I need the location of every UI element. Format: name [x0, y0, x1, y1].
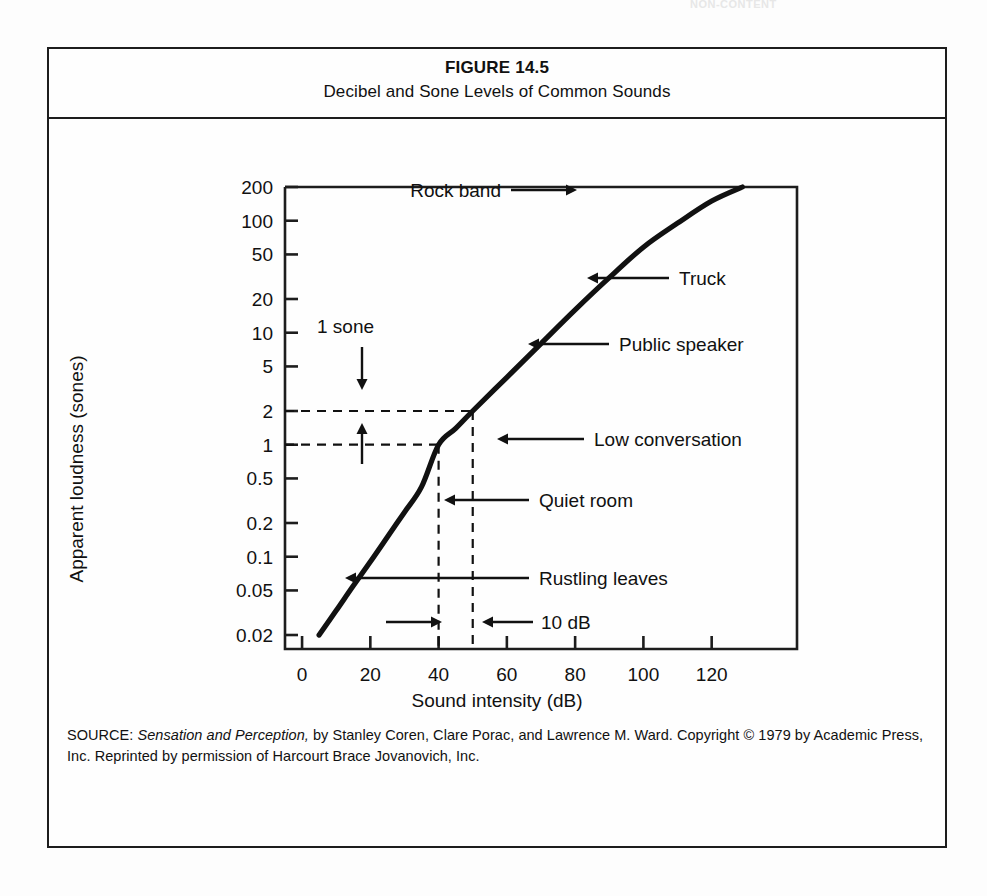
figure-header: FIGURE 14.5 Decibel and Sone Levels of C…: [49, 49, 945, 119]
y-tick-label: 200: [241, 177, 273, 198]
arrowhead: [431, 617, 442, 628]
arrowhead: [587, 273, 598, 284]
annotation-label: 1 sone: [317, 316, 374, 337]
y-tick-label: 100: [241, 211, 273, 232]
x-tick-label: 120: [696, 664, 728, 685]
arrowhead: [345, 573, 356, 584]
source-prefix: SOURCE:: [67, 727, 133, 743]
page-canvas: NON-CONTENT FIGURE 14.5 Decibel and Sone…: [0, 0, 987, 896]
annotation-label: Public speaker: [619, 334, 744, 355]
y-tick-label: 1: [262, 435, 273, 456]
annotation-label: Truck: [679, 268, 726, 289]
figure-title: Decibel and Sone Levels of Common Sounds: [49, 80, 945, 105]
annotation-label: Quiet room: [539, 490, 633, 511]
y-tick-label: 0.05: [236, 580, 273, 601]
annotation-label: 10 dB: [541, 612, 591, 633]
y-tick-label: 50: [252, 244, 273, 265]
source-title: Sensation and Perception,: [138, 727, 309, 743]
arrowhead: [357, 379, 368, 390]
reference-lines: [285, 411, 473, 649]
y-tick-label: 20: [252, 289, 273, 310]
x-tick-label: 20: [360, 664, 381, 685]
x-tick-label: 0: [297, 664, 308, 685]
y-axis-title: Apparent loudness (sones): [66, 355, 87, 582]
x-tick-label: 40: [428, 664, 449, 685]
y-tick-label: 0.5: [247, 468, 273, 489]
arrowhead: [357, 423, 368, 434]
y-tick-label: 10: [252, 323, 273, 344]
running-head: NON-CONTENT: [690, 0, 777, 10]
y-tick-label: 0.1: [247, 547, 273, 568]
annotation-label: Low conversation: [594, 429, 742, 450]
x-tick-label: 60: [496, 664, 517, 685]
y-tick-label: 2: [262, 401, 273, 422]
y-tick-label: 5: [262, 356, 273, 377]
figure-number: FIGURE 14.5: [49, 57, 945, 80]
annotation-leaders: [345, 185, 669, 628]
loudness-line-chart: 2001005020105210.50.20.10.050.02 0204060…: [49, 119, 945, 719]
figure-source: SOURCE: Sensation and Perception, by Sta…: [67, 725, 929, 766]
x-tick-label: 100: [628, 664, 660, 685]
annotation-label: Rock band: [410, 180, 501, 201]
arrowhead: [482, 617, 493, 628]
annotation-label: Rustling leaves: [539, 568, 668, 589]
arrowhead: [444, 495, 455, 506]
x-axis-title: Sound intensity (dB): [411, 690, 582, 711]
x-tick-label: 80: [565, 664, 586, 685]
figure-box: FIGURE 14.5 Decibel and Sone Levels of C…: [47, 47, 947, 848]
annotation-labels: Rock bandTruckPublic speakerLow conversa…: [317, 180, 744, 633]
y-tick-label: 0.02: [236, 625, 273, 646]
chart-plot-area: 2001005020105210.50.20.10.050.02 0204060…: [49, 119, 945, 719]
x-axis-ticks: 020406080100120: [297, 636, 728, 685]
y-tick-label: 0.2: [247, 513, 273, 534]
arrowhead: [497, 434, 508, 445]
